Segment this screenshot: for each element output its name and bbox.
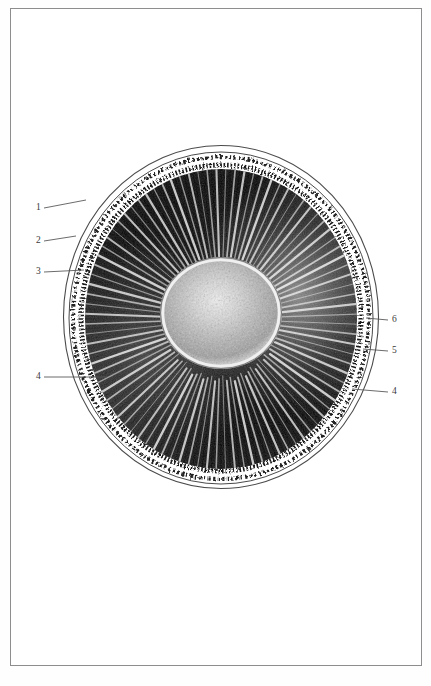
label-4-left: 4	[36, 372, 41, 382]
leader-line-3	[44, 270, 84, 272]
label-6-right: 6	[392, 315, 397, 325]
label-4-right: 4	[392, 387, 397, 397]
figure-illustration: 1234654	[0, 0, 431, 686]
leader-line-2	[44, 236, 76, 241]
label-5-right: 5	[392, 346, 397, 356]
label-1: 1	[36, 203, 41, 213]
anatomical-section-svg	[0, 0, 431, 686]
label-2: 2	[36, 236, 41, 246]
leader-line-1	[44, 200, 86, 208]
label-3: 3	[36, 267, 41, 277]
page-canvas: 1234654	[0, 0, 431, 686]
